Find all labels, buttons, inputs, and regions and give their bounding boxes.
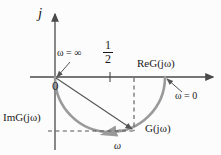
imaginary-part-label: ImG(jω) <box>3 112 41 123</box>
phasor-vector <box>56 78 132 129</box>
fraction-numerator: 1 <box>103 39 113 52</box>
one-half-tick-label: 1 2 <box>103 39 113 65</box>
omega-infinity-leader <box>57 62 70 77</box>
real-part-label: ReG(jω) <box>137 58 175 69</box>
plot-canvas <box>0 0 221 155</box>
omega-infinity-label: ω = ∞ <box>57 48 81 58</box>
fraction-denominator: 2 <box>103 53 113 66</box>
nyquist-diagram: j 0 ω = ∞ ω = 0 ReG(jω) ImG(jω) G(jω) ω … <box>0 0 221 155</box>
omega-zero-label: ω = 0 <box>175 91 197 101</box>
omega-direction-label: ω <box>114 141 121 151</box>
imaginary-axis-label: j <box>38 6 42 21</box>
transfer-point-label: G(jω) <box>145 123 171 134</box>
origin-label: 0 <box>52 79 59 92</box>
